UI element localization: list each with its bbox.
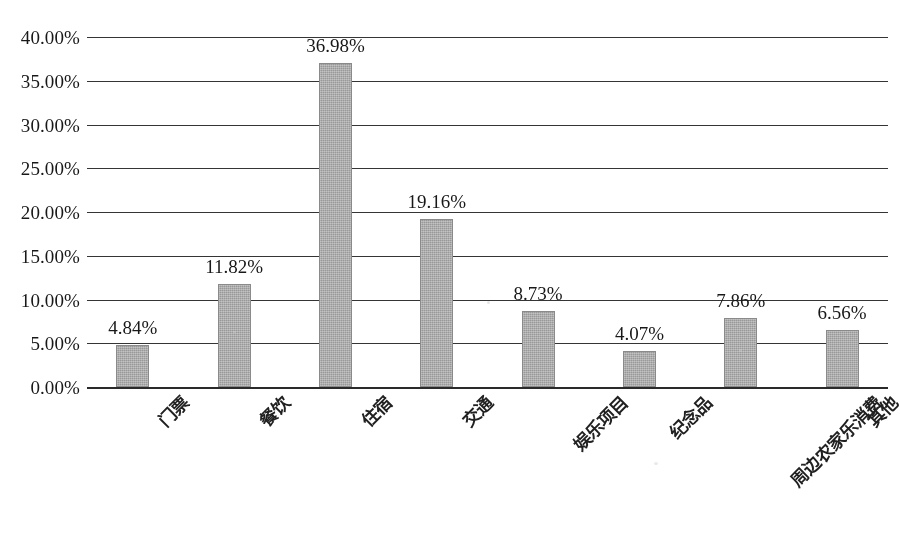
x-axis-category-label: 交通 [459,393,496,430]
bar [420,219,453,387]
y-axis-tick-labels: 40.00%35.00%30.00%25.00%20.00%15.00%10.0… [0,37,80,387]
bar-value-label: 8.73% [478,284,598,303]
gridline [87,343,888,344]
y-axis-tick-label: 15.00% [2,246,80,265]
bar [116,345,149,387]
y-axis-tick-label: 25.00% [2,159,80,178]
bar [724,318,757,387]
bar-chart: 40.00%35.00%30.00%25.00%20.00%15.00%10.0… [0,0,900,538]
y-axis-tick-label: 10.00% [2,290,80,309]
gridline [87,125,888,126]
y-axis-tick-label: 20.00% [2,203,80,222]
x-axis-category-label: 纪念品 [666,393,715,442]
bar-value-label: 4.84% [73,318,193,337]
bar-value-label: 6.56% [782,303,900,322]
y-axis-tick-label: 30.00% [2,115,80,134]
x-axis-category-label: 娱乐项目 [570,393,631,454]
x-axis-baseline [87,387,888,389]
bar [522,311,555,387]
gridline [87,81,888,82]
y-axis-tick-label: 40.00% [2,28,80,47]
x-axis-category-label: 门票 [155,393,192,430]
x-axis-category-labels: 门票餐饮住宿交通娱乐项目纪念品周边农家乐消费其他 [87,393,888,533]
bar-value-label: 11.82% [174,257,294,276]
gridline [87,37,888,38]
y-axis-tick-label: 35.00% [2,71,80,90]
bar [218,284,251,387]
bar [826,330,859,387]
y-axis-tick-label: 5.00% [2,334,80,353]
bar-value-label: 4.07% [579,324,699,343]
plot-area: 4.84%11.82%36.98%19.16%8.73%4.07%7.86%6.… [87,37,888,387]
gridline [87,168,888,169]
bar [319,63,352,387]
gridline [87,212,888,213]
bar [623,351,656,387]
bar-value-label: 19.16% [377,192,497,211]
y-axis-tick-label: 0.00% [2,378,80,397]
x-axis-category-label: 餐饮 [256,393,293,430]
x-axis-category-label: 住宿 [357,393,394,430]
bar-value-label: 36.98% [276,36,396,55]
